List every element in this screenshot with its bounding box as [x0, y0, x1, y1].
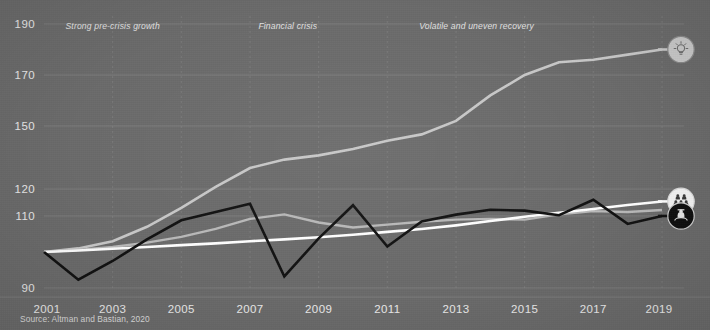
- annotation-label-2: Volatile and uneven recovery: [419, 21, 534, 31]
- series-end-icons: [658, 36, 694, 229]
- x-axis-tick-label: 2011: [374, 303, 400, 315]
- annotation-label-0: Strong pre-crisis growth: [65, 21, 159, 31]
- x-axis-tick-label: 2015: [511, 303, 538, 315]
- series-line-productivity: [44, 50, 662, 253]
- x-axis-tick-label: 2007: [236, 303, 263, 315]
- x-axis-tick-label: 2019: [645, 303, 672, 315]
- y-axis-tick-label: 120: [15, 183, 35, 195]
- x-axis-tick-label: 2017: [580, 303, 607, 315]
- y-axis-tick-label: 190: [15, 18, 35, 30]
- series-layer: [44, 50, 662, 280]
- y-axis-tick-label: 170: [15, 69, 35, 81]
- lightbulb-icon[interactable]: [658, 36, 694, 62]
- annotations: Strong pre-crisis growthFinancial crisis…: [65, 21, 534, 31]
- y-axis-tick-label: 90: [21, 282, 35, 294]
- icon-disc[interactable]: [668, 36, 694, 62]
- line-chart: 9011012015017019020012003200520072009201…: [0, 0, 710, 330]
- worker-person-icon[interactable]: [658, 203, 694, 229]
- x-axis-tick-label: 2013: [442, 303, 469, 315]
- x-axis-tick-label: 2005: [168, 303, 195, 315]
- x-axis-tick-label: 2009: [305, 303, 332, 315]
- source-caption: Source: Altman and Bastian, 2020: [20, 314, 150, 324]
- chart-container: 9011012015017019020012003200520072009201…: [0, 0, 710, 330]
- annotation-label-1: Financial crisis: [258, 21, 317, 31]
- y-axis-tick-label: 150: [15, 120, 35, 132]
- y-axis-tick-label: 110: [15, 210, 35, 222]
- series-line-wages: [44, 200, 662, 280]
